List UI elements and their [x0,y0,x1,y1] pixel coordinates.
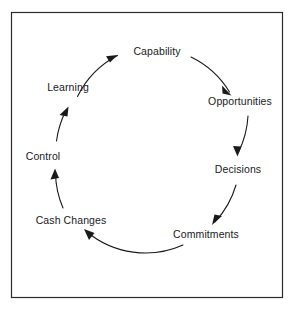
cycle-diagram-svg: Capability Opportunities Decisions Commi… [0,0,295,310]
node-label-control: Control [26,150,61,162]
arrowhead-into-learning [60,107,69,117]
diagram-canvas: Capability Opportunities Decisions Commi… [0,0,295,310]
node-label-commitments: Commitments [173,228,239,240]
arrowhead-into-commitments [212,215,222,226]
edge-capability-to-opportunities [191,57,230,92]
arrowhead-into-control [51,169,60,180]
edge-commitments-to-cash-changes [87,232,183,253]
cycle-node-labels-group: Capability Opportunities Decisions Commi… [26,45,272,240]
arrowhead-into-decisions [233,146,242,157]
node-label-decisions: Decisions [215,163,261,175]
node-label-opportunities: Opportunities [208,95,272,107]
node-label-capability: Capability [133,45,181,57]
node-label-learning: Learning [47,81,89,93]
arrowhead-into-cash-changes [84,229,95,240]
node-label-cash-changes: Cash Changes [36,214,107,226]
